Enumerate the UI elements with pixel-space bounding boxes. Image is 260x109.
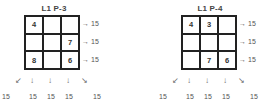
arrow-right-icon: → bbox=[82, 20, 89, 27]
diag-left-sum: 15 bbox=[2, 93, 10, 100]
arrow-down-icon: ↓ bbox=[205, 76, 209, 85]
arrow-right-icon: → bbox=[239, 38, 246, 45]
col-sum-2: 15 bbox=[204, 93, 212, 100]
magic-square-grid: 4 7 8 6 bbox=[24, 15, 80, 70]
diag-left-sum: 15 bbox=[159, 93, 167, 100]
arrow-down-right-icon: ↘ bbox=[81, 76, 88, 85]
row-sum-1: →15 bbox=[82, 20, 99, 27]
grid-cell-r1c3[interactable] bbox=[218, 16, 236, 34]
grid-cell-r3c1[interactable] bbox=[182, 51, 200, 69]
arrow-right-icon: → bbox=[239, 56, 246, 63]
col-sum-1: 15 bbox=[186, 93, 194, 100]
arrow-down-icon: ↓ bbox=[48, 76, 52, 85]
arrow-down-icon: ↓ bbox=[187, 76, 191, 85]
grid-cell-r3c2[interactable]: 7 bbox=[200, 51, 218, 69]
puzzle-title: L1 P-3 bbox=[24, 4, 84, 13]
magic-square-grid: 4 3 7 6 bbox=[181, 15, 237, 70]
col-sum-1: 15 bbox=[29, 93, 37, 100]
diag-right-sum: 15 bbox=[93, 93, 101, 100]
row-sum-3: →15 bbox=[82, 56, 99, 63]
grid-cell-r2c3[interactable]: 7 bbox=[61, 34, 79, 52]
grid-cell-r2c1[interactable] bbox=[25, 34, 43, 52]
arrow-right-icon: → bbox=[82, 38, 89, 45]
row-sum-2: →15 bbox=[82, 38, 99, 45]
arrow-right-icon: → bbox=[239, 20, 246, 27]
grid-cell-r2c2[interactable] bbox=[200, 34, 218, 52]
arrow-down-right-icon: ↘ bbox=[238, 76, 245, 85]
grid-cell-r2c3[interactable] bbox=[218, 34, 236, 52]
arrow-down-left-icon: ↙ bbox=[172, 76, 179, 85]
arrow-down-icon: ↓ bbox=[223, 76, 227, 85]
puzzle-panel-p4: L1 P-4 4 3 7 6 →15 →15 →15 ↙ ↓ ↓ ↓ ↘ 15 … bbox=[130, 0, 260, 109]
grid-cell-r3c3[interactable]: 6 bbox=[61, 51, 79, 69]
puzzle-panel-p3: L1 P-3 4 7 8 6 →15 →15 →15 ↙ ↓ ↓ ↓ ↘ 15 … bbox=[0, 0, 130, 109]
grid-cell-r2c1[interactable] bbox=[182, 34, 200, 52]
col-sum-3: 15 bbox=[65, 93, 73, 100]
arrow-down-icon: ↓ bbox=[66, 76, 70, 85]
puzzle-title: L1 P-4 bbox=[180, 4, 240, 13]
row-sum-1: →15 bbox=[239, 20, 256, 27]
arrow-down-left-icon: ↙ bbox=[15, 76, 22, 85]
arrow-down-icon: ↓ bbox=[30, 76, 34, 85]
row-sum-3: →15 bbox=[239, 56, 256, 63]
arrow-right-icon: → bbox=[82, 56, 89, 63]
grid-cell-r1c2[interactable]: 3 bbox=[200, 16, 218, 34]
grid-cell-r3c1[interactable]: 8 bbox=[25, 51, 43, 69]
grid-cell-r3c2[interactable] bbox=[43, 51, 61, 69]
grid-cell-r3c3[interactable]: 6 bbox=[218, 51, 236, 69]
row-sum-2: →15 bbox=[239, 38, 256, 45]
diag-right-sum: 15 bbox=[250, 93, 258, 100]
grid-cell-r1c2[interactable] bbox=[43, 16, 61, 34]
col-sum-3: 15 bbox=[222, 93, 230, 100]
grid-cell-r1c3[interactable] bbox=[61, 16, 79, 34]
col-sum-2: 15 bbox=[47, 93, 55, 100]
grid-cell-r1c1[interactable]: 4 bbox=[182, 16, 200, 34]
grid-cell-r1c1[interactable]: 4 bbox=[25, 16, 43, 34]
grid-cell-r2c2[interactable] bbox=[43, 34, 61, 52]
